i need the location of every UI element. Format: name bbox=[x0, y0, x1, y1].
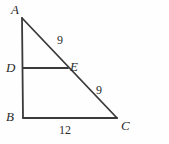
measure-label-ae: 9 bbox=[57, 34, 63, 46]
diagram-canvas bbox=[0, 0, 169, 144]
vertex-label-b: B bbox=[6, 110, 14, 123]
vertex-label-e: E bbox=[70, 60, 78, 73]
vertex-label-d: D bbox=[6, 61, 15, 74]
geometry-diagram: A D B C E 9 9 12 bbox=[0, 0, 169, 144]
measure-label-bc: 12 bbox=[59, 124, 71, 136]
vertex-label-c: C bbox=[121, 119, 130, 132]
vertex-label-a: A bbox=[11, 3, 19, 16]
measure-label-ec: 9 bbox=[96, 84, 102, 96]
